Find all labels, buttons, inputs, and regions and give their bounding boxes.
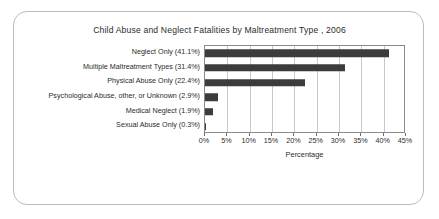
tick-label: 10%: [241, 136, 255, 145]
category-label: Psychological Abuse, other, or Unknown (…: [49, 89, 200, 104]
x-axis-ticks: 0%5%10%15%20%25%30%35%40%45%: [204, 133, 405, 147]
bar-row: [205, 90, 404, 105]
chart-card: Child Abuse and Neglect Fatalities by Ma…: [13, 11, 424, 205]
bar-row: [205, 119, 404, 134]
tick-label: 25%: [308, 136, 322, 145]
bar-series: [205, 46, 404, 132]
bar: [205, 50, 389, 58]
bar: [205, 94, 218, 102]
tick-label: 15%: [264, 136, 278, 145]
category-label: Medical Neglect (1.9%): [126, 104, 200, 119]
bar: [205, 79, 305, 87]
category-label: Sexual Abuse Only (0.3%): [116, 118, 200, 133]
plot-area: [204, 45, 405, 133]
category-label: Neglect Only (41.1%): [132, 45, 200, 60]
x-axis-label: Percentage: [204, 150, 405, 159]
tick-label: 0%: [199, 136, 209, 145]
category-label: Multiple Maltreatment Types (31.4%): [83, 60, 200, 75]
tick-label: 35%: [353, 136, 367, 145]
tick-label: 40%: [375, 136, 389, 145]
bar-row: [205, 61, 404, 76]
category-label: Physical Abuse Only (22.4%): [107, 74, 200, 89]
tick-label: 30%: [331, 136, 345, 145]
bar: [205, 64, 345, 72]
bar-row: [205, 75, 404, 90]
bar-row: [205, 46, 404, 61]
bar: [205, 123, 206, 131]
tick-label: 5%: [221, 136, 231, 145]
tick-label: 45%: [398, 136, 412, 145]
bar: [205, 108, 213, 116]
tick-label: 20%: [286, 136, 300, 145]
chart-title: Child Abuse and Neglect Fatalities by Ma…: [14, 25, 425, 35]
category-axis-labels: Neglect Only (41.1%)Multiple Maltreatmen…: [14, 45, 202, 133]
bar-row: [205, 105, 404, 120]
